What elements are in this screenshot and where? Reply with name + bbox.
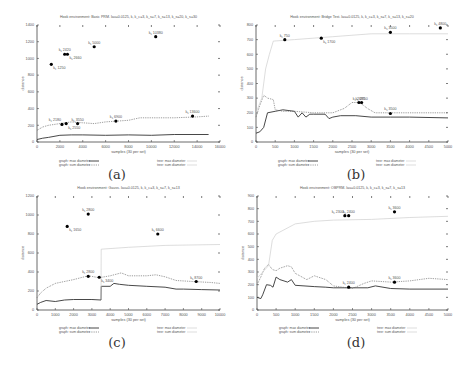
- point-label: ks 3500: [384, 26, 396, 31]
- x-tick-label: 4000: [106, 313, 114, 317]
- y-tick-label: 300: [247, 96, 253, 100]
- legend-label: tree: sum diameter: [376, 163, 405, 167]
- legend-label: graph: sum diameter: [59, 330, 91, 334]
- chart-b: Hook environment: Bridge Test. lau=0.012…: [233, 0, 467, 184]
- data-point: [93, 45, 96, 48]
- x-axis-label: samples (30 per set): [111, 318, 146, 322]
- chart-title: Hook environment: OBPRM. lau=0.0125, k, …: [300, 186, 405, 190]
- x-tick-label: 3000: [88, 313, 96, 317]
- data-point: [87, 212, 90, 215]
- x-axis-label: samples (30 per set): [335, 318, 370, 322]
- chart-title: Hook environment: Basic PRM. lau=0.0125,…: [60, 15, 197, 19]
- point-label: ks 2800: [82, 208, 94, 213]
- point-label: kc 1250: [53, 66, 65, 71]
- x-tick-label: 8000: [124, 145, 132, 149]
- x-tick-label: 500: [272, 145, 278, 149]
- caption-d: (d): [341, 335, 371, 350]
- y-tick-label: 600: [28, 251, 34, 255]
- y-tick-label: 700: [247, 38, 253, 42]
- y-tick-label: 0: [252, 308, 254, 312]
- y-tick-label: 1000: [26, 213, 34, 217]
- point-label: ks 2420: [59, 48, 71, 53]
- x-tick-label: 0: [255, 145, 257, 149]
- x-tick-label: 1000: [291, 313, 299, 317]
- y-axis-label: distance: [240, 76, 244, 90]
- legend-label: tree: sum diameter: [157, 163, 186, 167]
- data-point: [393, 210, 396, 213]
- y-tick-label: 1000: [26, 57, 34, 61]
- y-tick-label: 200: [28, 289, 34, 293]
- point-label: ks 2660: [69, 56, 81, 61]
- point-label: kc 2800: [82, 270, 94, 275]
- caption-b: (b): [341, 167, 371, 182]
- y-tick-label: 1200: [26, 194, 34, 198]
- point-label: ks 6900: [110, 115, 122, 120]
- point-label: ks 8700: [190, 276, 202, 281]
- series-line: [101, 245, 220, 300]
- y-tick-label: 0: [251, 140, 253, 144]
- data-point: [347, 286, 350, 289]
- point-label: ks 4800: [434, 22, 446, 27]
- x-tick-label: 2500: [348, 145, 356, 149]
- y-tick-label: 600: [28, 90, 34, 94]
- panel-b: Hook environment: Bridge Test. lau=0.012…: [233, 0, 467, 184]
- x-tick-label: 2000: [69, 313, 77, 317]
- legend-label: graph: sum diameter: [279, 330, 311, 334]
- point-label: ks 2400: [343, 210, 355, 215]
- data-point: [76, 122, 79, 125]
- series-line: [37, 135, 209, 140]
- data-point: [283, 38, 286, 41]
- data-point: [191, 114, 194, 117]
- point-label: kc 750: [280, 34, 290, 39]
- y-tick-label: 400: [248, 258, 254, 262]
- x-tick-label: 8000: [179, 313, 187, 317]
- caption-a: (a): [102, 167, 132, 182]
- series-line: [257, 216, 448, 278]
- x-tick-label: 1000: [51, 313, 59, 317]
- y-axis-label: distance: [21, 76, 25, 90]
- point-label: ks 3400: [101, 279, 113, 284]
- x-tick-label: 10000: [146, 145, 157, 149]
- x-tick-label: 3000: [367, 145, 375, 149]
- y-tick-label: 800: [247, 23, 253, 27]
- x-tick-label: 12000: [169, 145, 180, 149]
- chart-title: Hook environment: Gauss. lau=0.0125, k, …: [77, 186, 179, 190]
- y-tick-label: 400: [28, 270, 34, 274]
- point-label: kc 2180: [49, 118, 61, 123]
- y-tick-label: 0: [32, 140, 34, 144]
- data-point: [393, 281, 396, 284]
- y-tick-label: 800: [28, 73, 34, 77]
- chart-title: Hook environment: Bridge Test. lau=0.012…: [290, 15, 414, 19]
- y-tick-label: 600: [247, 53, 253, 57]
- x-axis-label: samples (30 per set): [335, 150, 370, 154]
- y-tick-label: 100: [248, 296, 254, 300]
- data-point: [156, 232, 159, 235]
- point-label: ks 3550: [72, 118, 84, 123]
- x-tick-label: 2500: [348, 313, 356, 317]
- legend-label: tree: sum diameter: [377, 330, 406, 334]
- series-line: [37, 283, 220, 304]
- point-label: ks 3600: [388, 276, 400, 281]
- x-tick-label: 500: [273, 313, 279, 317]
- y-tick-label: 800: [28, 232, 34, 236]
- y-tick-label: 200: [247, 111, 253, 115]
- x-tick-label: 6000: [143, 313, 151, 317]
- data-point: [87, 275, 90, 278]
- data-point: [195, 280, 198, 283]
- x-tick-label: 3000: [367, 313, 375, 317]
- point-label: ks 2550: [68, 126, 80, 131]
- legend-label: tree: sum diameter: [157, 330, 186, 334]
- y-tick-label: 700: [248, 220, 254, 224]
- y-tick-label: 0: [32, 308, 34, 312]
- x-tick-label: 0: [36, 313, 38, 317]
- y-tick-label: 400: [247, 82, 253, 86]
- data-point: [347, 214, 350, 217]
- y-tick-label: 1200: [26, 40, 34, 44]
- y-tick-label: 500: [248, 245, 254, 249]
- y-tick-label: 800: [248, 207, 254, 211]
- y-axis-label: distance: [241, 246, 245, 260]
- y-tick-label: 900: [248, 194, 254, 198]
- y-tick-label: 200: [28, 124, 34, 128]
- y-tick-label: 600: [248, 232, 254, 236]
- point-label: kc 2400: [343, 281, 355, 286]
